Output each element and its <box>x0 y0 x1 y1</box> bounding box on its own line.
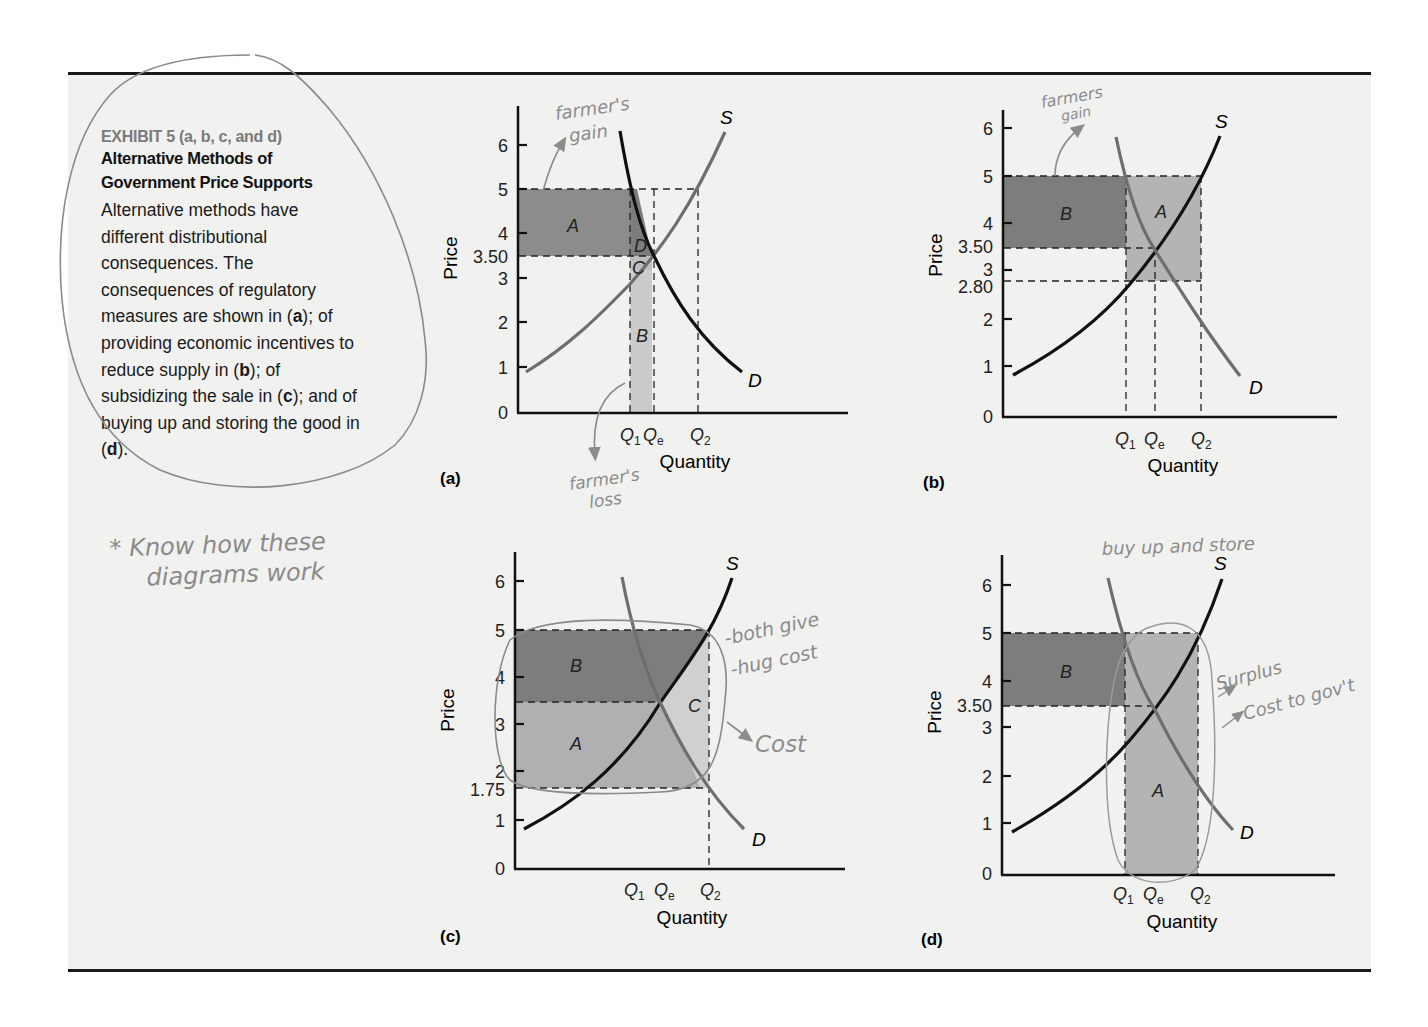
svg-text:5: 5 <box>495 621 505 641</box>
annotation-farmers-gain-a-2: gain <box>568 120 609 146</box>
svg-text:1: 1 <box>982 814 992 834</box>
svg-text:Q2: Q2 <box>1190 884 1211 907</box>
svg-text:A: A <box>1154 202 1167 222</box>
svg-text:0: 0 <box>495 859 505 879</box>
demand-label-a: D <box>748 370 762 391</box>
svg-text:A: A <box>1151 781 1164 801</box>
svg-text:Qe: Qe <box>654 880 675 903</box>
svg-text:B: B <box>1060 204 1072 224</box>
svg-text:Q1: Q1 <box>1115 429 1136 452</box>
charts-canvas: 654 3.5032 10 Price Quantity Q1 Qe Q2 S … <box>0 0 1428 1027</box>
panel-label-d: (d) <box>921 930 943 949</box>
annotation-buy-up-and-store: buy up and store <box>1101 533 1255 559</box>
svg-text:B: B <box>1060 662 1072 682</box>
y-axis-label-d: Price <box>924 690 945 733</box>
svg-text:Q1: Q1 <box>620 425 641 448</box>
chart-panel-c: 654 321.75 10 Price Quantity Q1 Qe Q2 S … <box>437 552 845 946</box>
svg-text:B: B <box>570 656 582 676</box>
annotation-farmers-loss-a-2: loss <box>588 488 623 512</box>
chart-panel-b: 654 3.5032.80 210 Price Quantity Q1 Qe Q… <box>923 82 1337 492</box>
svg-text:0: 0 <box>498 403 508 423</box>
svg-text:3: 3 <box>498 269 508 289</box>
svg-text:1: 1 <box>495 811 505 831</box>
svg-text:0: 0 <box>983 407 993 427</box>
chart-panel-d: 654 3.5032 10 Price Quantity Q1 Qe Q2 S … <box>921 533 1358 949</box>
svg-text:2: 2 <box>982 767 992 787</box>
panel-label-c: (c) <box>440 927 461 946</box>
svg-text:3.50: 3.50 <box>473 247 508 267</box>
supply-label-d: S <box>1214 553 1227 574</box>
svg-text:Q2: Q2 <box>700 880 721 903</box>
annotation-huge-cost: -hug cost <box>728 640 821 680</box>
svg-text:A: A <box>569 734 582 754</box>
demand-label-d: D <box>1240 822 1254 843</box>
svg-text:5: 5 <box>498 180 508 200</box>
annotation-surplus: Surplus <box>1214 656 1285 694</box>
svg-text:2: 2 <box>983 310 993 330</box>
supply-label-c: S <box>726 553 739 574</box>
svg-text:C: C <box>688 696 702 716</box>
svg-text:A: A <box>566 216 579 236</box>
panel-label-b: (b) <box>923 473 945 492</box>
supply-label-b: S <box>1215 111 1228 132</box>
svg-text:6: 6 <box>498 136 508 156</box>
svg-text:6: 6 <box>495 572 505 592</box>
svg-text:5: 5 <box>982 624 992 644</box>
supply-label-a: S <box>720 107 733 128</box>
x-axis-label-b: Quantity <box>1148 455 1219 476</box>
x-axis-label-c: Quantity <box>657 907 728 928</box>
demand-label-b: D <box>1249 377 1263 398</box>
svg-text:6: 6 <box>983 119 993 139</box>
x-axis-label-d: Quantity <box>1147 911 1218 932</box>
svg-text:2.80: 2.80 <box>958 277 993 297</box>
demand-label-c: D <box>752 829 766 850</box>
x-axis-label-a: Quantity <box>660 451 731 472</box>
svg-text:Q1: Q1 <box>1113 884 1134 907</box>
svg-text:2: 2 <box>498 313 508 333</box>
handwritten-circle-caption <box>60 55 426 487</box>
svg-text:1.75: 1.75 <box>470 780 505 800</box>
svg-text:3: 3 <box>495 715 505 735</box>
svg-text:4: 4 <box>982 672 992 692</box>
svg-text:Qe: Qe <box>1144 429 1165 452</box>
svg-text:2: 2 <box>495 762 505 782</box>
svg-text:Qe: Qe <box>643 425 664 448</box>
annotation-cost: Cost <box>755 731 807 757</box>
annotation-farmers-gain-a: farmer's <box>554 93 631 124</box>
y-axis-label-c: Price <box>437 688 458 731</box>
svg-text:3.50: 3.50 <box>958 237 993 257</box>
svg-text:Q2: Q2 <box>690 425 711 448</box>
svg-text:0: 0 <box>982 864 992 884</box>
chart-panel-a: 654 3.5032 10 Price Quantity Q1 Qe Q2 S … <box>440 93 848 512</box>
svg-text:Q2: Q2 <box>1191 429 1212 452</box>
svg-text:1: 1 <box>983 357 993 377</box>
svg-text:4: 4 <box>498 224 508 244</box>
panel-label-a: (a) <box>440 469 461 488</box>
svg-text:Q1: Q1 <box>624 880 645 903</box>
svg-text:3: 3 <box>982 718 992 738</box>
svg-text:4: 4 <box>983 214 993 234</box>
svg-text:Qe: Qe <box>1143 884 1164 907</box>
svg-text:C: C <box>632 258 646 278</box>
svg-text:B: B <box>636 326 648 346</box>
svg-text:5: 5 <box>983 167 993 187</box>
y-axis-label-a: Price <box>440 236 461 279</box>
svg-text:1: 1 <box>498 358 508 378</box>
y-axis-label-b: Price <box>925 233 946 276</box>
svg-text:6: 6 <box>982 576 992 596</box>
svg-text:D: D <box>634 236 647 256</box>
svg-text:3.50: 3.50 <box>957 696 992 716</box>
